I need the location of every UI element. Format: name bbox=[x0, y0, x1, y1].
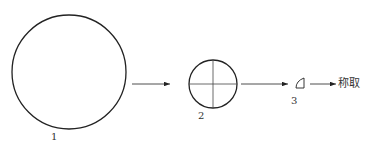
stage-2-label: 2 bbox=[198, 111, 204, 121]
stage-1-label: 1 bbox=[51, 132, 57, 142]
stage-1-large-circle bbox=[12, 15, 126, 129]
stage-3-quarter-sector bbox=[296, 78, 304, 88]
stage-3-label: 3 bbox=[291, 96, 297, 106]
stage-2-quartered-circle bbox=[189, 60, 237, 108]
quartering-diagram bbox=[0, 0, 370, 148]
weigh-label: 称取 bbox=[338, 78, 360, 89]
